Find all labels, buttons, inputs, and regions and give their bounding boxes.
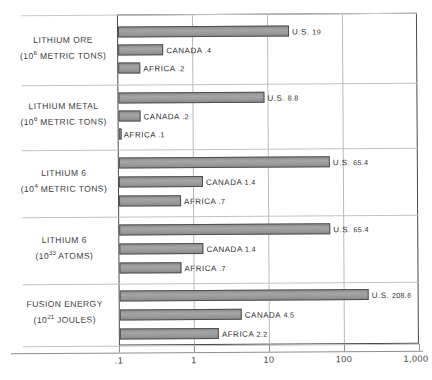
bar-lithium6-atoms-africa <box>119 262 181 273</box>
bar-lithium-metal-africa <box>119 129 122 140</box>
x-tick-label-1: 1 <box>191 355 197 365</box>
bar-label-lithium-metal-canada: CANADA .2 <box>144 111 189 122</box>
category-label-line1: LITHIUM 6 <box>41 168 86 178</box>
bar-label-lithium6-mass-us: U.S. 65.4 <box>333 157 369 168</box>
category-label-line2: (1021 JOULES) <box>11 310 119 326</box>
bar-label-lithium-ore-us: U.S. 19 <box>292 26 321 37</box>
x-tick-0 <box>119 346 120 353</box>
x-axis-line <box>11 351 423 355</box>
x-tick-label-4: 1,000 <box>403 354 428 364</box>
bar-label-lithium6-atoms-us: U.S. 65.4 <box>333 224 369 235</box>
bar-label-lithium-metal-us: U.S. 8.8 <box>267 92 298 103</box>
bar-label-lithium6-mass-canada: CANADA 1.4 <box>206 177 256 188</box>
x-tick-4 <box>419 344 420 351</box>
bar-label-fusion-energy-us: U.S. 208.6 <box>372 290 412 301</box>
bar-lithium6-mass-canada <box>119 176 203 188</box>
bar-lithium-metal-canada <box>119 110 141 121</box>
bar-label-lithium6-atoms-canada: CANADA 1.4 <box>206 244 256 255</box>
bar-lithium6-mass-us <box>119 156 330 168</box>
bar-lithium-metal-us <box>118 92 264 104</box>
category-label-line2: (106 METRIC TONS) <box>9 46 117 62</box>
bar-label-lithium-ore-africa: AFRICA .2 <box>143 63 184 74</box>
x-tick-3 <box>344 344 345 351</box>
category-label-line1: LITHIUM 6 <box>42 235 87 245</box>
bar-label-lithium-metal-africa: AFRICA .1 <box>124 129 165 140</box>
bar-label-lithium6-mass-africa: AFRICA .7 <box>184 196 225 207</box>
category-label-line1: FUSION ENERGY <box>27 299 103 309</box>
bar-fusion-energy-canada <box>120 309 242 321</box>
category-label-lithium-6-atoms: LITHIUM 6 (1033 ATOMS) <box>10 235 118 262</box>
group-separator-5 <box>23 344 419 347</box>
bar-lithium-ore-us <box>118 26 289 38</box>
bar-label-fusion-energy-canada: CANADA 4.5 <box>245 310 295 321</box>
category-label-line2: (106 METRIC TONS) <box>10 112 118 128</box>
bar-label-lithium6-atoms-africa: AFRICA .7 <box>184 263 225 274</box>
x-tick-label-0: .1 <box>115 356 124 366</box>
category-label-line2: (1033 ATOMS) <box>10 246 118 262</box>
category-label-line1: LITHIUM ORE <box>33 35 93 45</box>
category-label-line1: LITHIUM METAL <box>28 101 98 111</box>
bar-lithium-ore-africa <box>118 62 140 73</box>
bar-fusion-energy-us <box>120 289 369 302</box>
bar-label-fusion-energy-africa: AFRICA 2.2 <box>222 329 268 340</box>
x-tick-label-3: 100 <box>336 354 353 364</box>
category-label-lithium-metal: LITHIUM METAL (106 METRIC TONS) <box>9 101 117 128</box>
x-tick-2 <box>269 345 270 352</box>
category-label-lithium-ore: LITHIUM ORE (106 METRIC TONS) <box>9 35 117 62</box>
lithium-fusion-bar-chart: LITHIUM ORE (106 METRIC TONS) LITHIUM ME… <box>0 0 432 380</box>
bar-fusion-energy-africa <box>120 328 219 340</box>
bar-lithium6-mass-africa <box>119 195 181 206</box>
category-label-line2: (104 METRIC TONS) <box>10 179 118 195</box>
bar-lithium6-atoms-us <box>119 223 330 235</box>
category-label-fusion-energy: FUSION ENERGY (1021 JOULES) <box>11 299 119 326</box>
category-label-lithium-6-mass: LITHIUM 6 (104 METRIC TONS) <box>10 168 118 195</box>
x-tick-1 <box>194 345 195 352</box>
x-tick-label-2: 10 <box>263 355 274 365</box>
bar-label-lithium-ore-canada: CANADA .4 <box>166 45 211 56</box>
bar-lithium6-atoms-canada <box>119 243 203 255</box>
bar-lithium-ore-canada <box>118 44 163 55</box>
